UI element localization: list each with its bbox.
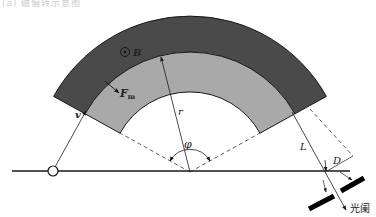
right-dashed-radius xyxy=(190,133,260,172)
slit-plate-right xyxy=(341,178,364,191)
source-point xyxy=(48,166,58,176)
Fm-sub: m xyxy=(128,92,136,101)
r-label: r xyxy=(178,106,184,117)
D-label: D xyxy=(332,155,341,166)
slit-plate-left xyxy=(309,196,334,209)
phi-label: φ xyxy=(184,138,192,151)
v-label: v xyxy=(75,109,81,120)
L-label: L xyxy=(299,141,307,152)
magnetic-field-dot xyxy=(124,51,127,54)
slit-arrow-left xyxy=(323,180,326,192)
left-dashed-radius xyxy=(120,133,190,172)
phi-angle-arc xyxy=(170,149,210,161)
slit-arrow-right xyxy=(340,172,352,180)
slit-label: 光阑 xyxy=(350,202,370,214)
magnetic-sector-diagram: φ r v B Fm L D 光阑 xyxy=(0,0,376,217)
exit-ray-arrowhead-top xyxy=(325,160,326,171)
outer-dashed-line xyxy=(310,109,353,156)
B-label: B xyxy=(132,47,141,58)
incoming-ray xyxy=(55,111,86,167)
